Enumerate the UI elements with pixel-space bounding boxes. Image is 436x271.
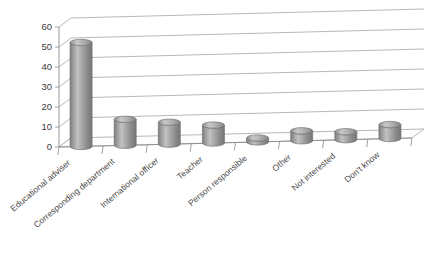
x-tick-mark	[278, 141, 279, 149]
category-label: Don't know	[342, 149, 381, 184]
grid-line	[71, 29, 424, 38]
y-tick-label: 30	[41, 81, 52, 92]
floor-plane	[59, 129, 424, 147]
bar-body	[114, 119, 136, 148]
axis-lines	[59, 27, 412, 147]
bar	[247, 135, 269, 145]
bar	[335, 128, 357, 142]
grid-depth-connector	[59, 118, 71, 127]
bar-series	[70, 39, 401, 149]
bar	[70, 39, 92, 149]
grid-line	[71, 89, 424, 98]
grid-lines	[59, 9, 424, 147]
x-tick-mark	[58, 147, 59, 155]
bar	[158, 119, 180, 147]
category-label: Corresponding department	[32, 156, 117, 230]
bar	[379, 121, 401, 141]
grid-line	[71, 69, 424, 78]
bar	[291, 128, 313, 144]
x-tick-mark	[367, 139, 368, 147]
category-label: Not interested	[290, 151, 338, 193]
bar-cap	[202, 122, 224, 128]
chart-canvas: 0102030405060 Educational adviserCorresp…	[0, 0, 436, 271]
bar-chart: 0102030405060 Educational adviserCorresp…	[0, 0, 436, 271]
y-tick-label: 20	[41, 101, 52, 112]
bar-cap	[158, 119, 180, 125]
category-labels: Educational adviserCorresponding departm…	[8, 149, 381, 230]
bar	[202, 122, 224, 146]
bar-body	[70, 42, 92, 149]
grid-line	[71, 9, 424, 18]
bar-cap	[114, 116, 136, 122]
y-tick-label: 10	[41, 121, 52, 132]
grid-line	[71, 49, 424, 58]
category-label: Teacher	[175, 154, 205, 181]
bar-cap	[247, 135, 269, 141]
y-tick-label: 60	[41, 21, 52, 32]
plot-floor	[59, 129, 424, 147]
x-tick-mark	[323, 140, 324, 148]
category-label: Other	[270, 152, 293, 174]
y-axis-ticks: 0102030405060	[41, 21, 59, 152]
bar	[114, 116, 136, 148]
x-tick-mark	[190, 144, 191, 152]
grid-depth-connector	[59, 58, 71, 67]
grid-depth-connector	[59, 98, 71, 107]
y-tick-label: 50	[41, 41, 52, 52]
bar-body	[158, 122, 180, 147]
x-tick-mark	[102, 146, 103, 154]
bar-cap	[291, 128, 313, 134]
grid-depth-connector	[59, 38, 71, 47]
bar-cap	[335, 128, 357, 134]
grid-depth-connector	[59, 18, 71, 27]
bar-cap	[70, 39, 92, 45]
y-tick-label: 40	[41, 61, 52, 72]
x-tick-mark	[234, 143, 235, 151]
x-tick-mark	[146, 145, 147, 153]
x-tick-mark	[411, 138, 412, 146]
grid-depth-connector	[59, 78, 71, 87]
bar-cap	[379, 121, 401, 127]
y-tick-label: 0	[47, 141, 52, 152]
